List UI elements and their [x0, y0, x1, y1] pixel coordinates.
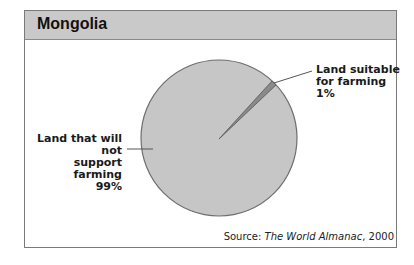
- label-unsuitable-line1: Land that will not: [22, 133, 122, 157]
- label-unsuitable-line2: support farming: [22, 157, 122, 181]
- label-suitable: Land suitable for farming 1%: [316, 64, 400, 100]
- label-unsuitable: Land that will not support farming 99%: [22, 133, 122, 193]
- source-suffix: , 2000: [362, 231, 394, 242]
- source-work: The World Almanac: [265, 231, 363, 242]
- label-unsuitable-pct: 99%: [22, 181, 122, 193]
- leader-line-suitable: [274, 71, 312, 83]
- source-prefix: Source:: [224, 231, 265, 242]
- label-suitable-pct: 1%: [316, 88, 400, 100]
- source-note: Source: The World Almanac, 2000: [224, 231, 394, 242]
